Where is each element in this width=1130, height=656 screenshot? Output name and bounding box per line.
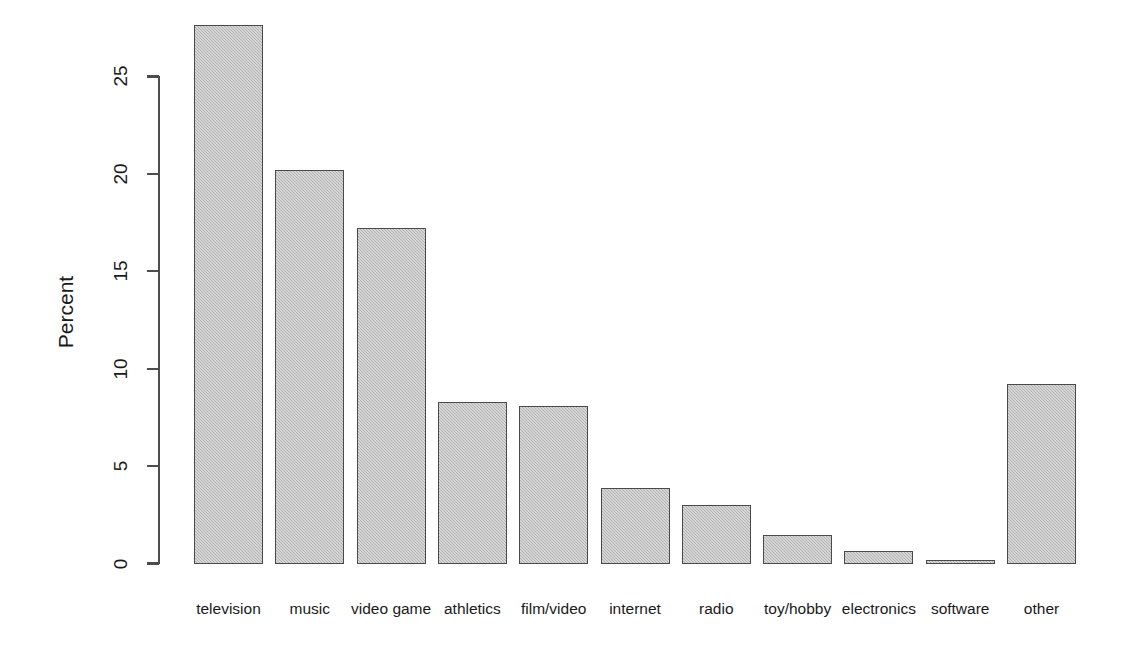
y-axis-tick-label: 0: [108, 544, 134, 584]
y-axis-line: [158, 76, 160, 564]
y-axis-tick-mark: [147, 173, 159, 175]
bar: [357, 228, 426, 564]
bar: [682, 505, 751, 564]
y-axis-tick-label: 20: [108, 154, 134, 194]
bar: [519, 406, 588, 564]
y-axis-tick-label: 25: [108, 56, 134, 96]
bar: [844, 551, 913, 564]
y-axis-tick-label-text: 10: [110, 358, 132, 379]
y-axis-tick-mark: [147, 75, 159, 77]
y-axis-tick-label: 5: [108, 446, 134, 486]
y-axis-tick-label: 15: [108, 251, 134, 291]
bar: [275, 170, 344, 564]
y-axis-tick-mark: [147, 270, 159, 272]
y-axis-tick-label-text: 20: [110, 163, 132, 184]
y-axis-tick-label: 10: [108, 349, 134, 389]
bar: [194, 25, 263, 564]
y-axis-title: Percent: [46, 252, 86, 372]
bar: [438, 402, 507, 564]
y-axis-tick-label-text: 0: [110, 559, 132, 570]
bar: [763, 535, 832, 564]
y-axis-tick-label-text: 15: [110, 261, 132, 282]
bar: [926, 560, 995, 564]
bar: [601, 488, 670, 564]
y-axis-tick-label-text: 5: [110, 461, 132, 472]
bar: [1007, 384, 1076, 564]
y-axis-tick-label-text: 25: [110, 65, 132, 86]
y-axis-tick-mark: [147, 465, 159, 467]
x-axis-category-label: other: [972, 600, 1112, 618]
y-axis-tick-mark: [147, 368, 159, 370]
y-axis-title-text: Percent: [54, 276, 78, 348]
bar-chart: Percent 0510152025 televisionmusicvideo …: [0, 0, 1130, 656]
y-axis-tick-mark: [147, 563, 159, 565]
